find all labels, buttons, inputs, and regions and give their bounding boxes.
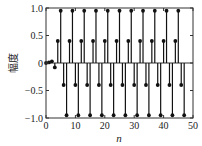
stem <box>153 9 157 63</box>
stem <box>132 63 136 87</box>
stem <box>100 63 104 117</box>
stem <box>62 63 66 87</box>
stem <box>141 9 145 63</box>
stem-marker <box>97 83 101 87</box>
stem <box>118 9 122 63</box>
stem-marker <box>53 66 57 70</box>
stem-marker <box>144 83 148 87</box>
stem <box>50 59 54 63</box>
stem <box>150 39 154 63</box>
stem <box>138 39 142 63</box>
stem <box>159 63 163 117</box>
stem-marker <box>74 83 78 87</box>
stem <box>59 9 63 63</box>
stem-marker <box>82 9 86 13</box>
stem <box>176 9 180 63</box>
stem-marker <box>112 113 116 117</box>
x-tick-label: 30 <box>129 120 139 131</box>
stem <box>135 63 139 117</box>
stem-marker <box>115 39 119 43</box>
stem-marker <box>94 9 98 13</box>
stem-marker <box>121 83 125 87</box>
stem-marker <box>173 39 177 43</box>
y-axis-label: 幅度 <box>7 53 19 73</box>
stem <box>115 39 119 63</box>
stem <box>74 63 78 87</box>
stem <box>82 9 86 63</box>
stem-marker <box>100 113 104 117</box>
stem <box>162 39 166 63</box>
stem <box>91 39 95 63</box>
stem <box>53 63 57 69</box>
stem-marker <box>132 83 136 87</box>
stem-marker <box>168 83 172 87</box>
stem <box>112 63 116 117</box>
stem-marker <box>50 59 54 63</box>
stem-marker <box>153 9 157 13</box>
stem <box>76 63 80 117</box>
stem-marker <box>79 39 83 43</box>
stem <box>68 39 72 63</box>
stem-marker <box>103 39 107 43</box>
stem <box>182 63 186 117</box>
y-tick-label: −0.5 <box>25 85 43 96</box>
stem <box>129 9 133 63</box>
stem <box>79 39 83 63</box>
stem <box>165 9 169 63</box>
stem-marker <box>106 9 110 13</box>
stem <box>168 63 172 87</box>
stem <box>179 63 183 87</box>
stem-marker <box>176 9 180 13</box>
x-tick-label: 50 <box>188 120 198 131</box>
y-tick-label: 1.0 <box>31 3 44 14</box>
stem-marker <box>138 39 142 43</box>
y-tick-label: 0 <box>38 58 43 69</box>
stem-marker <box>165 9 169 13</box>
stem-chart: −1.0−0.500.51.0 01020304050 n 幅度 <box>0 0 202 146</box>
stem <box>88 63 92 117</box>
stem-marker <box>159 113 163 117</box>
stem-marker <box>76 113 80 117</box>
stem-marker <box>126 39 130 43</box>
x-tick-label: 20 <box>100 120 110 131</box>
stem-marker <box>150 39 154 43</box>
x-tick-label: 10 <box>70 120 80 131</box>
stem <box>123 63 127 117</box>
y-tick-label: −1.0 <box>25 113 43 124</box>
stem-marker <box>147 113 151 117</box>
stem-marker <box>56 39 60 43</box>
x-tick-label: 40 <box>159 120 169 131</box>
stem <box>106 9 110 63</box>
stem-marker <box>59 9 63 13</box>
stem <box>85 63 89 87</box>
stem-marker <box>88 113 92 117</box>
stem-marker <box>135 113 139 117</box>
stem-marker <box>85 83 89 87</box>
stem-marker <box>118 9 122 13</box>
stem <box>121 63 125 87</box>
stem-marker <box>129 9 133 13</box>
stem <box>147 63 151 117</box>
stem <box>71 9 75 63</box>
stem <box>126 39 130 63</box>
stem <box>171 63 175 117</box>
stem <box>94 9 98 63</box>
stem-marker <box>156 83 160 87</box>
stem-marker <box>71 9 75 13</box>
stem-marker <box>91 39 95 43</box>
stem-marker <box>109 83 113 87</box>
stem <box>109 63 113 87</box>
stem-marker <box>182 113 186 117</box>
stem-marker <box>123 113 127 117</box>
x-tick-label: 0 <box>44 120 49 131</box>
stem <box>65 63 69 117</box>
plot-area <box>44 9 193 117</box>
stem <box>97 63 101 87</box>
stem-marker <box>179 83 183 87</box>
stem <box>56 39 60 63</box>
stem <box>156 63 160 87</box>
stem <box>173 39 177 63</box>
stem-marker <box>141 9 145 13</box>
stem-marker <box>68 39 72 43</box>
stem-marker <box>62 83 66 87</box>
